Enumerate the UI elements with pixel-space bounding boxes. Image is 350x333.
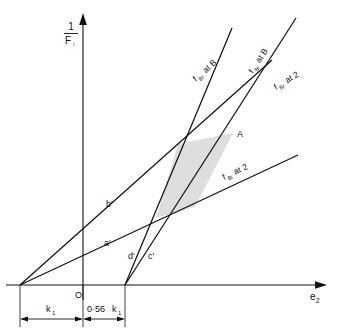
- dimension-arrow-056k1-left: [83, 317, 91, 322]
- point-label-A: A: [237, 129, 243, 139]
- y-axis-label-denominator: F: [65, 35, 71, 46]
- dimension-label-k1-sub: 1: [52, 310, 56, 316]
- line-a-prime-stroke: [20, 155, 298, 285]
- curve-label-fBr-at-2-tail: at 2: [283, 69, 301, 85]
- dimension-label-056k1: 0·56 k 1: [87, 304, 122, 316]
- y-axis-label-numerator: 1: [68, 21, 74, 32]
- y-axis-label-group: 1 F i: [64, 21, 78, 47]
- dimension-label-056k1-sub: 1: [118, 310, 122, 316]
- y-axis-arrowhead: [79, 13, 87, 25]
- curve-label-fBr-at-B-sub: Br: [197, 74, 205, 82]
- point-label-d-prime: d': [128, 251, 135, 261]
- dimension-label-056k1-base: k: [112, 304, 117, 314]
- x-axis-arrowhead: [315, 281, 327, 289]
- curve-label-fBr-at-B-tail: at B: [200, 57, 218, 75]
- y-axis-label-denominator-subscript: i: [73, 41, 74, 47]
- point-label-b-prime: b': [106, 199, 113, 209]
- origin-label: O: [75, 290, 82, 300]
- dimension-arrow-k1-left: [20, 317, 28, 322]
- dimension-label-056k1-prefix: 0·56: [87, 304, 105, 314]
- curve-label-fBr-at-B: f Br at B: [191, 57, 220, 84]
- curve-label-fBi-at-2-sub: Bi: [227, 174, 234, 182]
- dimension-label-k1-base: k: [46, 304, 51, 314]
- dimension-arrow-056k1-right: [117, 317, 125, 322]
- dimension-label-k1: k 1: [46, 304, 56, 316]
- dimension-arrow-k1-right: [75, 317, 83, 322]
- curve-label-fBi-at-2-tail: at 2: [232, 161, 249, 176]
- curve-label-fBi-at-B: f Bi at B: [246, 46, 271, 76]
- curve-label-fBr-at-2: f Br at 2: [272, 69, 301, 93]
- point-label-c-prime: c': [148, 251, 155, 261]
- diagram-canvas: 1 F i e 2 O f Br at B f Bi at B f Br: [0, 0, 350, 333]
- point-label-a-prime: a': [104, 238, 111, 248]
- x-axis-label-subscript: 2: [316, 297, 320, 304]
- curve-label-fBr-at-2-sub: Br: [278, 83, 286, 91]
- figure-container: 1 F i e 2 O f Br at B f Bi at B f Br: [0, 0, 350, 333]
- x-axis-label-group: e 2: [310, 291, 320, 304]
